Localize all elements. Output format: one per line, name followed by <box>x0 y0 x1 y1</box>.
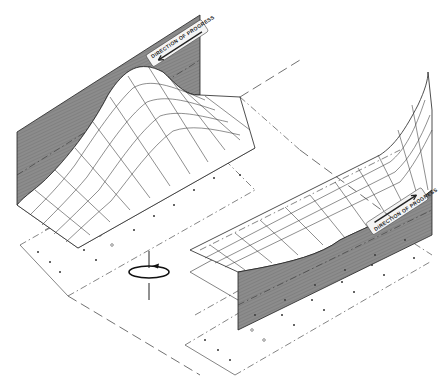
wave-diagram: DIRECTION OF PROGRESS <box>0 0 444 390</box>
